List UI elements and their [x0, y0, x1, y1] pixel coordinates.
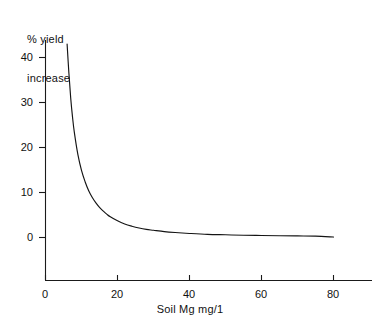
y-tick-label-30: 30 [7, 96, 33, 108]
x-tick-label-80: 80 [318, 288, 348, 300]
y-tick-label-0: 0 [7, 231, 33, 243]
data-series-line [67, 44, 333, 237]
x-tick-label-60: 60 [246, 288, 276, 300]
x-tick-label-0: 0 [30, 288, 60, 300]
y-axis-label-line-1: % yield [27, 33, 70, 46]
x-axis-label: Soil Mg mg/1 [0, 303, 380, 316]
y-axis-label-line-2: increase [27, 72, 70, 85]
chart-figure: % yield increase Soil Mg mg/1 0 10 20 30… [0, 0, 380, 331]
y-axis-label: % yield increase [27, 7, 70, 111]
y-tick-label-10: 10 [7, 186, 33, 198]
y-tick-label-20: 20 [7, 141, 33, 153]
x-tick-label-40: 40 [174, 288, 204, 300]
y-tick-label-40: 40 [7, 51, 33, 63]
x-tick-label-20: 20 [102, 288, 132, 300]
x-axis-ticks [46, 275, 334, 280]
